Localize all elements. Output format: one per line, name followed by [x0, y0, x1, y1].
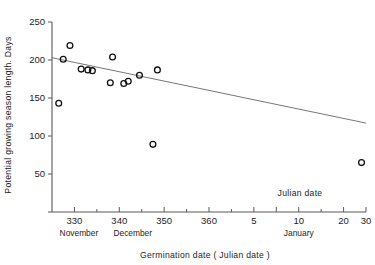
data-point: [107, 80, 113, 86]
x-tick-label-330: 330: [66, 215, 82, 226]
x-tick-label-5: 5: [251, 215, 256, 226]
x-axis-title: Germination date ( Julian date ): [140, 250, 270, 260]
julian-date-annotation: Julian date: [278, 188, 323, 198]
y-tick-label-50: 50: [34, 168, 45, 179]
y-tick-label-200: 200: [29, 54, 45, 65]
axes-group: [52, 22, 366, 212]
x-tick-label-360: 360: [201, 215, 217, 226]
data-point: [110, 54, 116, 60]
data-points-group: [56, 43, 365, 166]
y-axis-ticks: 50100150200250: [29, 16, 52, 212]
x-tick-label-10: 10: [293, 215, 304, 226]
month-label-december: December: [113, 228, 152, 238]
data-point: [56, 100, 62, 106]
month-labels: NovemberDecemberJanuary: [60, 228, 315, 238]
y-tick-label-250: 250: [29, 16, 45, 27]
scatter-plot-figure: 3303403503605102030 50100150200250 Novem…: [0, 0, 375, 265]
y-tick-label-100: 100: [29, 130, 45, 141]
data-point: [78, 66, 84, 72]
y-tick-label-150: 150: [29, 92, 45, 103]
y-axis-title: Potential growing season length. Days: [3, 36, 13, 193]
x-tick-label-350: 350: [156, 215, 172, 226]
data-point: [359, 160, 365, 166]
regression-line: [52, 58, 366, 123]
data-point: [67, 43, 73, 49]
x-tick-label-30: 30: [361, 215, 372, 226]
x-tick-label-20: 20: [338, 215, 349, 226]
x-tick-label-340: 340: [111, 215, 127, 226]
data-point: [155, 67, 161, 73]
month-label-november: November: [60, 228, 99, 238]
data-point: [150, 141, 156, 147]
month-label-january: January: [284, 228, 315, 238]
plot-canvas: 3303403503605102030 50100150200250 Novem…: [0, 0, 375, 265]
x-axis-ticks: 3303403503605102030: [66, 207, 371, 226]
trend-line: [52, 58, 366, 123]
